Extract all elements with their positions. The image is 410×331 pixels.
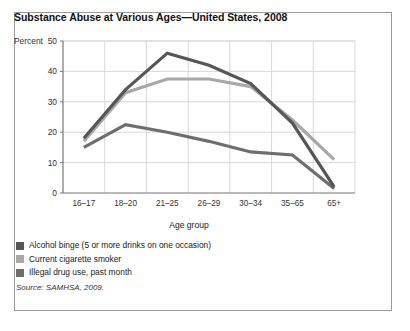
legend-color-swatch (16, 269, 24, 277)
series-line (84, 125, 334, 189)
legend-item-label: Alcohol binge (5 or more drinks on one o… (29, 241, 211, 249)
legend-item: Illegal drug use, past month (16, 267, 356, 278)
legend-item: Current cigarette smoker (16, 254, 356, 265)
legend-color-swatch (16, 255, 24, 263)
y-axis-tick-label: 40 (31, 67, 57, 75)
y-axis-tick-label: 50 (31, 37, 57, 45)
x-axis-title: Age group (0, 220, 378, 230)
source-note: Source: SAMHSA, 2009. (16, 283, 104, 292)
legend-item-label: Illegal drug use, past month (29, 268, 132, 276)
x-axis-tick-label: 65+ (310, 200, 358, 208)
series-line (84, 79, 334, 160)
y-axis-tick-label: 10 (31, 159, 57, 167)
y-axis-tick-label: 30 (31, 98, 57, 106)
y-axis-tick-label: 20 (31, 128, 57, 136)
series-line (84, 53, 334, 187)
chart-legend: Alcohol binge (5 or more drinks on one o… (16, 240, 356, 281)
y-axis-tick-label: 0 (31, 189, 57, 197)
legend-item: Alcohol binge (5 or more drinks on one o… (16, 240, 356, 251)
legend-color-swatch (16, 242, 24, 250)
legend-item-label: Current cigarette smoker (29, 255, 121, 263)
